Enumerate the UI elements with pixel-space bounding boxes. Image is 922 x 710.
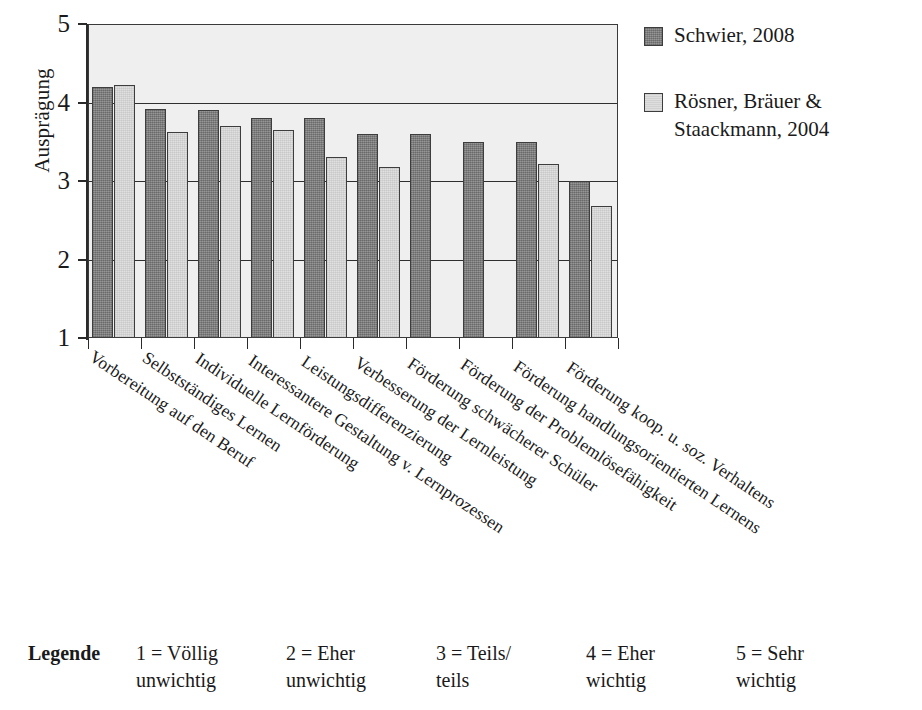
bar-group bbox=[247, 24, 300, 338]
scale-item-4-line1: 4 = Eher bbox=[586, 642, 655, 664]
scale-item-2: 2 = Eher unwichtig bbox=[286, 640, 436, 694]
bar-group bbox=[88, 24, 141, 338]
scale-item-5: 5 = Sehr wichtig bbox=[736, 640, 886, 694]
legend-swatch-icon-dark bbox=[644, 27, 663, 46]
y-axis-label-2: 2 bbox=[26, 247, 70, 272]
y-axis-label-1: 1 bbox=[26, 325, 70, 350]
bar-dark bbox=[410, 134, 431, 338]
bar-group bbox=[565, 24, 618, 338]
scale-item-3-line2: teils bbox=[436, 667, 586, 694]
y-axis-label-4: 4 bbox=[26, 90, 70, 115]
legend-label-schwier: Schwier, 2008 bbox=[674, 22, 794, 50]
scale-item-1-line2: unwichtig bbox=[136, 667, 286, 694]
scale-item-2-line1: 2 = Eher bbox=[286, 642, 355, 664]
x-axis-category-labels: Vorbereitung auf den BerufSelbstständige… bbox=[0, 340, 922, 600]
bar-light bbox=[591, 206, 612, 338]
y-tick-4 bbox=[78, 102, 87, 104]
category-label: Förderung der Problemlösefähigkeit bbox=[457, 356, 680, 514]
bar-light bbox=[538, 164, 559, 338]
bar-group bbox=[194, 24, 247, 338]
bar-dark bbox=[357, 134, 378, 338]
y-axis-label-5: 5 bbox=[26, 11, 70, 36]
bar-group bbox=[353, 24, 406, 338]
bar-dark bbox=[145, 109, 166, 338]
scale-item-4: 4 = Eher wichtig bbox=[586, 640, 736, 694]
legend-entry-schwier: Schwier, 2008 bbox=[644, 22, 922, 50]
bar-light bbox=[167, 132, 188, 338]
bar-group bbox=[300, 24, 353, 338]
bar-light bbox=[326, 157, 347, 338]
bar-dark bbox=[463, 142, 484, 338]
bars-layer bbox=[88, 24, 618, 338]
bar-dark bbox=[569, 181, 590, 338]
scale-item-5-line2: wichtig bbox=[736, 667, 886, 694]
scale-item-3: 3 = Teils/ teils bbox=[436, 640, 586, 694]
scale-item-1: 1 = Völlig unwichtig bbox=[136, 640, 286, 694]
legend-swatch-icon-light bbox=[644, 93, 663, 112]
bar-dark bbox=[251, 118, 272, 338]
y-tick-1 bbox=[78, 337, 87, 339]
bar-light bbox=[273, 130, 294, 338]
y-tick-5 bbox=[78, 23, 87, 25]
bar-dark bbox=[516, 142, 537, 338]
bar-group bbox=[406, 24, 459, 338]
y-axis-label-3: 3 bbox=[26, 168, 70, 193]
bar-light bbox=[379, 167, 400, 338]
y-tick-3 bbox=[78, 180, 87, 182]
scale-legend-title: Legende bbox=[0, 640, 136, 667]
scale-legend: Legende 1 = Völlig unwichtig 2 = Eher un… bbox=[0, 640, 922, 694]
legend-label-roesner: Rösner, Bräuer & Staackmann, 2004 bbox=[674, 88, 906, 144]
bar-group bbox=[459, 24, 512, 338]
bar-dark bbox=[92, 87, 113, 338]
series-legend: Schwier, 2008 Rösner, Bräuer & Staackman… bbox=[644, 22, 922, 182]
bar-dark bbox=[304, 118, 325, 338]
scale-item-4-line2: wichtig bbox=[586, 667, 736, 694]
bar-group bbox=[512, 24, 565, 338]
scale-item-5-line1: 5 = Sehr bbox=[736, 642, 804, 664]
scale-item-2-line2: unwichtig bbox=[286, 667, 436, 694]
scale-item-1-line1: 1 = Völlig bbox=[136, 642, 218, 664]
bar-light bbox=[114, 85, 135, 338]
bar-group bbox=[141, 24, 194, 338]
legend-entry-roesner: Rösner, Bräuer & Staackmann, 2004 bbox=[644, 88, 922, 144]
bar-dark bbox=[198, 110, 219, 338]
bar-light bbox=[220, 126, 241, 338]
y-tick-2 bbox=[78, 259, 87, 261]
scale-item-3-line1: 3 = Teils/ bbox=[436, 642, 511, 664]
